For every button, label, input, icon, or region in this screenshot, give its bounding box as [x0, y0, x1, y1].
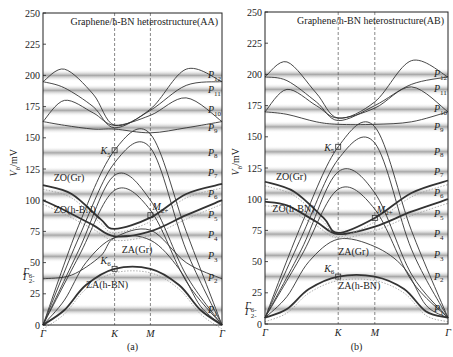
- x-tick-label: M: [370, 327, 380, 338]
- y-tick-label: 75: [30, 226, 40, 237]
- x-tick-label: Γ: [39, 328, 46, 339]
- panel-a: 0255075100125150175200225250ΓKMΓGraphene…: [8, 8, 225, 354]
- panel-title: Graphene/h-BN heterostructure(AA): [71, 16, 218, 28]
- annotation-label: ZO(Gr): [54, 172, 85, 184]
- y-tick-label: 175: [25, 101, 40, 112]
- y-axis-label: Vb/mV: [8, 148, 22, 176]
- annotation-label: ZA(h-BN): [86, 279, 128, 291]
- y-tick-label: 200: [25, 70, 40, 81]
- y-axis-label: Vb/mV: [230, 147, 244, 175]
- x-tick-label: Γ: [261, 327, 268, 338]
- panel-title: Graphene/h-BN heterostructure(AB): [297, 15, 444, 27]
- y-tick-label: 225: [25, 39, 40, 50]
- y-tick-label: 50: [252, 256, 262, 267]
- y-tick-label: 75: [252, 225, 262, 236]
- annotation-label: ZO(h-BN): [54, 204, 96, 216]
- shaded-band: [265, 68, 448, 80]
- y-tick-label: 150: [247, 131, 262, 142]
- panel-caption: (a): [127, 341, 138, 353]
- shaded-band: [43, 69, 222, 81]
- y-tick-label: 125: [25, 164, 40, 175]
- band-structure-figure: 0255075100125150175200225250ΓKMΓGraphene…: [0, 0, 453, 357]
- x-tick-label: Γ: [444, 327, 451, 338]
- x-tick-label: K: [334, 327, 343, 338]
- annotation-label: ZA(h-BN): [338, 280, 380, 292]
- shaded-band: [43, 104, 222, 116]
- shaded-band: [265, 83, 448, 95]
- y-tick-label: 25: [252, 287, 262, 298]
- y-tick-label: 100: [25, 195, 40, 206]
- y-tick-label: 250: [247, 7, 262, 18]
- x-tick-label: M: [145, 328, 155, 339]
- panel-caption: (b): [351, 341, 363, 353]
- y-tick-label: 50: [30, 257, 40, 268]
- y-tick-label: 250: [25, 8, 40, 19]
- annotation-label: ZA(Gr): [338, 246, 369, 258]
- annotation-label: ZO(Gr): [276, 171, 307, 183]
- shaded-band: [265, 146, 448, 158]
- y-tick-label: 100: [247, 194, 262, 205]
- y-tick-label: 225: [247, 38, 262, 49]
- x-tick-label: Γ: [218, 328, 225, 339]
- annotation-label: ZO(h-BN): [272, 203, 314, 215]
- panel-b: 0255075100125150175200225250ΓKMΓGraphene…: [230, 7, 451, 354]
- shaded-band: [265, 228, 448, 240]
- y-tick-label: 150: [25, 132, 40, 143]
- y-tick-label: 200: [247, 69, 262, 80]
- shaded-band: [43, 147, 222, 159]
- y-tick-label: 25: [30, 288, 40, 299]
- y-tick-label: 125: [247, 163, 262, 174]
- y-tick-label: 175: [247, 100, 262, 111]
- x-tick-label: K: [110, 328, 119, 339]
- shaded-band: [43, 122, 222, 134]
- shaded-band: [265, 121, 448, 133]
- shaded-band: [43, 304, 222, 316]
- annotation-label: ZA(Gr): [122, 244, 153, 256]
